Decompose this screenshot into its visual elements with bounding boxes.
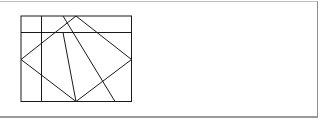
- long-diagonal: [63, 16, 115, 102]
- inner-line-to-bottom-vertex: [63, 33, 76, 102]
- geometry-figure: [0, 0, 332, 122]
- rhombus-bottom-right: [76, 60, 132, 102]
- rhombus-bottom-left: [21, 60, 76, 102]
- outer-rectangle: [21, 16, 132, 102]
- rhombus-top-left: [21, 16, 76, 60]
- rhombus-top-right: [76, 16, 132, 60]
